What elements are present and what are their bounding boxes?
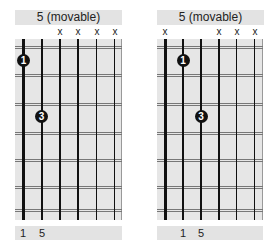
fret-line — [15, 159, 122, 160]
fret-number-footer: 1 5 — [15, 226, 122, 240]
footer-label: 5 — [37, 226, 47, 240]
finger-dot: 1 — [177, 54, 190, 67]
footer-label: 1 — [178, 226, 188, 240]
guitar-string-3 — [200, 39, 202, 220]
fret-line — [15, 211, 122, 212]
muted-string-marker: x — [110, 27, 120, 37]
fret-line — [15, 103, 122, 104]
muted-string-marker: x — [250, 27, 260, 37]
fret-line — [15, 186, 122, 187]
fret-line — [15, 188, 122, 189]
fret-line — [15, 209, 122, 210]
fret-line — [15, 48, 122, 49]
chord-diagram-right: 5 (movable) x x x x 1 3 1 5 — [142, 0, 272, 247]
chord-title: 5 (movable) — [157, 10, 264, 25]
fret-line — [157, 186, 263, 187]
grid-edge-right — [262, 39, 263, 220]
guitar-string-4 — [77, 39, 79, 220]
finger-dot: 1 — [17, 54, 30, 67]
muted-string-marker: x — [73, 27, 83, 37]
guitar-string-2 — [41, 39, 43, 220]
chord-diagram-left: 5 (movable) x x x x 1 3 1 5 — [0, 0, 130, 247]
fret-line — [157, 161, 263, 162]
fret-line — [157, 105, 263, 106]
muted-string-marker: x — [92, 27, 102, 37]
guitar-string-4 — [218, 39, 220, 220]
guitar-string-5 — [236, 39, 237, 220]
chord-title: 5 (movable) — [15, 10, 122, 25]
muted-string-marker: x — [55, 27, 65, 37]
muted-string-marker: x — [214, 27, 224, 37]
fret-number-footer: 1 5 — [157, 226, 263, 240]
fret-line — [157, 46, 263, 47]
fret-line — [157, 103, 263, 104]
guitar-string-5 — [96, 39, 97, 220]
fret-line — [157, 211, 263, 212]
fret-line — [15, 46, 122, 47]
fret-line — [15, 134, 122, 135]
fretboard-grid: 1 3 — [157, 39, 263, 220]
guitar-string-1 — [164, 39, 167, 220]
fret-line — [157, 188, 263, 189]
fret-line — [15, 76, 122, 77]
fret-line — [15, 105, 122, 106]
fret-line — [157, 159, 263, 160]
muted-string-marker: x — [232, 27, 242, 37]
fret-line — [15, 161, 122, 162]
fret-line — [157, 209, 263, 210]
guitar-string-6 — [254, 39, 255, 220]
footer-label: 1 — [18, 226, 28, 240]
fret-line — [15, 132, 122, 133]
guitar-string-6 — [114, 39, 115, 220]
footer-label: 5 — [196, 226, 206, 240]
fret-line — [157, 48, 263, 49]
fret-line — [157, 132, 263, 133]
muted-string-marker: x — [160, 27, 170, 37]
grid-edge-right — [121, 39, 122, 220]
fret-line — [157, 134, 263, 135]
fretboard-grid: 1 3 — [15, 39, 122, 220]
fret-line — [157, 74, 263, 75]
guitar-string-3 — [59, 39, 61, 220]
finger-dot: 3 — [35, 110, 48, 123]
fret-line — [15, 74, 122, 75]
fret-line — [157, 76, 263, 77]
finger-dot: 3 — [195, 110, 208, 123]
